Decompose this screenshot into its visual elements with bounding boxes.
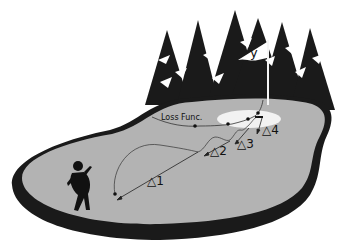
ball-start <box>113 192 117 196</box>
delta-1-label: △1 <box>147 175 164 187</box>
golf-diagram <box>0 0 344 244</box>
target-y-label: y <box>250 46 258 59</box>
delta-4-label: △4 <box>262 124 279 136</box>
loss-function-label: Loss Func. <box>161 114 202 122</box>
delta-2-label: △2 <box>210 145 227 157</box>
delta-3-label: △3 <box>237 138 254 150</box>
